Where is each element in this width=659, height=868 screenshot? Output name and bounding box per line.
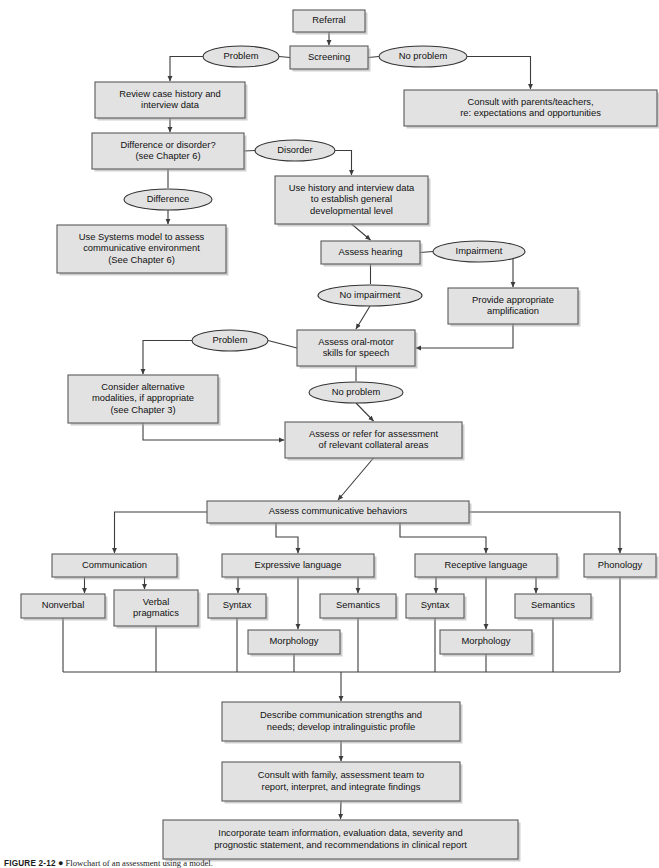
node-label: needs; develop intralinguistic profile [267,721,416,732]
flow-node-consult_parents: Consult with parents/teachers,re: expect… [404,90,659,129]
flow-node-semantics_rec: Semantics [515,594,594,621]
flow-node-difference_disorder: Difference or disorder?(see Chapter 6) [92,133,247,172]
flow-node-expressive_language: Expressive language [222,554,377,580]
node-label: Review case history and [119,88,221,99]
flow-node-consult_family: Consult with family, assessment team tor… [222,762,463,804]
node-label: Morphology [270,635,319,646]
connector [170,57,203,82]
node-label: Problem [224,50,259,61]
flow-node-nonverbal: Nonverbal [21,594,108,621]
node-label: Expressive language [254,559,341,570]
flow-node-problem2: Problem [192,330,268,351]
node-label: Assess communicative behaviors [269,505,408,516]
node-label: prognostic statement, and recommendation… [214,839,467,850]
flow-node-communication: Communication [52,554,180,580]
flow-node-phonology: Phonology [584,554,659,580]
node-label: Difference or disorder? [120,139,215,150]
node-label: Syntax [421,599,450,610]
node-label: report, interpret, and integrate finding… [262,781,421,792]
node-label: (See Chapter 6) [108,254,175,265]
flow-node-semantics_exp: Semantics [320,594,399,621]
flow-node-use_history: Use history and interview datato establi… [275,176,431,227]
connector [268,341,297,349]
flow-node-referral: Referral [293,10,368,35]
node-label: re: expectations and opportunities [460,107,601,118]
flow-node-disorder: Disorder [255,140,335,161]
flow-node-incorporate_team: Incorporate team information, evaluation… [163,820,521,862]
connector [115,512,208,553]
flow-node-syntax_exp: Syntax [208,594,269,621]
node-label: interview data [141,99,200,110]
node-label: No problem [332,386,381,397]
node-label: of relevant collateral areas [319,439,429,450]
flow-node-systems_model: Use Systems model to assesscommunicative… [57,225,229,276]
node-label: Referral [312,14,345,25]
connector [469,512,620,553]
node-label: (see Chapter 3) [110,404,175,415]
node-label: amplification [487,305,539,316]
node-label: Communication [82,559,147,570]
connector [356,306,370,329]
flow-node-screening: Screening [290,46,371,72]
node-label: Phonology [598,559,643,570]
node-label: Incorporate team information, evaluation… [218,827,462,838]
connector [338,458,374,500]
node-label: Receptive language [445,559,528,570]
flow-node-morphology_exp: Morphology [248,630,343,657]
connector [143,341,192,375]
node-label: (see Chapter 6) [135,150,200,161]
connector [467,57,531,90]
node-label: Impairment [456,245,503,256]
flow-node-describe_comm: Describe communication strengths andneed… [222,702,463,744]
node-label: communicative environment [83,242,200,253]
node-label: Consider alternative [101,381,184,392]
flowchart-nodes: ReferralScreeningProblemNo problemReview… [21,10,659,862]
figure-caption-text: Flowchart of an assessment using a model… [66,858,213,868]
node-label: to establish general [311,193,392,204]
node-label: Difference [147,193,190,204]
flow-node-consider_alt: Consider alternativemodalities, if appro… [68,375,221,426]
node-label: developmental level [310,205,393,216]
connector [143,423,284,440]
flow-node-problem1: Problem [203,46,279,67]
node-label: Describe communication strengths and [260,709,422,720]
node-label: Semantics [336,599,380,610]
node-label: pragmatics [133,607,179,618]
connector [279,57,290,58]
flow-node-difference: Difference [124,189,212,210]
node-label: Consult with parents/teachers, [467,96,593,107]
flow-node-impairment: Impairment [433,241,525,262]
node-label: Assess oral-motor [318,336,394,347]
flow-node-assess_collateral: Assess or refer for assessmentof relevan… [285,422,465,461]
node-label: skills for speech [323,347,390,358]
figure-caption: FIGURE 2-12 ● Flowchart of an assessment… [4,858,213,868]
flow-node-morphology_rec: Morphology [440,630,535,657]
connector [276,523,298,553]
flow-node-receptive_language: Receptive language [415,554,560,580]
flow-node-syntax_rec: Syntax [406,594,467,621]
flow-node-assess_hearing: Assess hearing [321,241,423,267]
figure-caption-label: FIGURE 2-12 [4,859,56,868]
figure-caption-bullet: ● [58,858,63,868]
node-label: Problem [213,334,248,345]
node-label: Use Systems model to assess [79,231,205,242]
flow-node-verbal_pragmatics: Verbalpragmatics [114,590,201,629]
flow-node-provide_amp: Provide appropriateamplification [448,288,581,327]
flow-node-review_case_history: Review case history andinterview data [95,82,248,121]
node-label: Assess or refer for assessment [309,428,439,439]
connector [400,523,486,553]
node-label: Consult with family, assessment team to [258,769,425,780]
node-label: Nonverbal [42,599,85,610]
node-label: No impairment [340,289,401,300]
node-label: No problem [399,50,448,61]
node-label: Use history and interview data [289,182,415,193]
connector [356,403,374,421]
node-label: Syntax [223,599,252,610]
node-label: Assess hearing [338,246,402,257]
flow-node-assess_comm_behav: Assess communicative behaviors [207,501,472,526]
flow-node-no_problem2: No problem [309,382,403,403]
node-label: Morphology [462,635,511,646]
connector [335,151,352,176]
flow-node-no_impairment: No impairment [318,285,422,306]
